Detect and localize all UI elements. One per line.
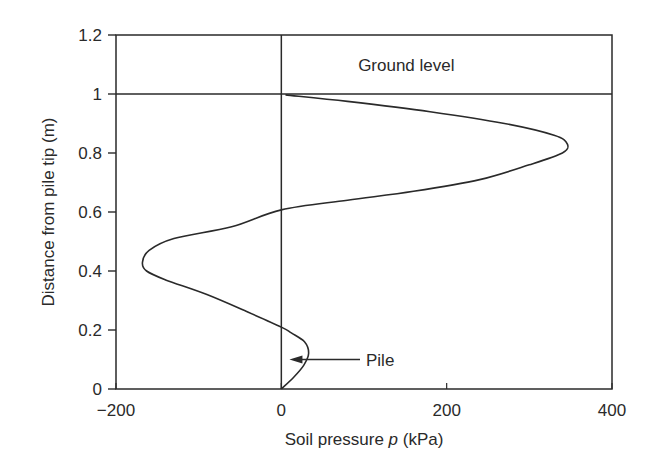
x-tick-label: 400 [598,401,626,420]
y-tick-label: 1 [93,85,102,104]
y-tick-label: 0 [93,380,102,399]
arrow-head-icon [289,356,302,364]
x-axis-title-text: Soil pressure [285,430,389,449]
y-tick-label: 1.2 [78,26,102,45]
y-tick-label: 0.8 [78,144,102,163]
x-axis-title-unit: (kPa) [398,430,443,449]
x-axis-title-var: p [388,430,398,449]
y-tick-label: 0.6 [78,203,102,222]
plot-border [116,35,612,389]
reference-lines [116,35,612,389]
plot-frame [116,35,612,389]
pressure-curve [142,95,568,389]
pile-label: Pile [366,351,394,370]
x-axis-title: Soil pressure p (kPa) [285,430,444,449]
y-tick-label: 0.2 [78,321,102,340]
x-tick-label: 0 [277,401,286,420]
soil-pressure-chart: 00.20.40.60.811.2 −2000200400 Ground lev… [0,0,651,474]
ground-level-label: Ground level [358,56,454,75]
y-axis-title: Distance from pile tip (m) [39,118,58,307]
x-tick-label: 200 [432,401,460,420]
pile-annotation: Pile [289,351,394,370]
y-tick-label: 0.4 [78,262,102,281]
x-tick-label: −200 [97,401,135,420]
y-axis-ticks: 00.20.40.60.811.2 [78,26,116,399]
